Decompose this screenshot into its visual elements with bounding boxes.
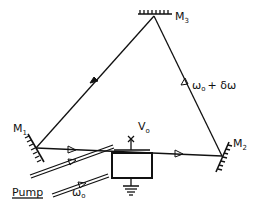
label-voltage: Vo xyxy=(138,120,150,135)
arrow-m3-m1 xyxy=(90,77,98,83)
modulator-crystal xyxy=(112,153,152,178)
label-pump: Pump xyxy=(12,186,43,199)
ground-icon xyxy=(123,186,139,195)
arrow-m3-m2 xyxy=(181,78,188,85)
label-pump-frequency: ωo xyxy=(72,186,86,200)
label-m1: M1 xyxy=(13,122,27,137)
ring-laser-diagram: M3 M1 M2 ωo+ δω Vo Pump ωo xyxy=(0,0,259,211)
label-m3: M3 xyxy=(175,10,189,25)
mirror-m2 xyxy=(216,142,232,172)
label-m2: M2 xyxy=(233,137,247,152)
label-beam-frequency: ωo+ δω xyxy=(192,79,236,93)
mirror-m3 xyxy=(138,10,172,14)
